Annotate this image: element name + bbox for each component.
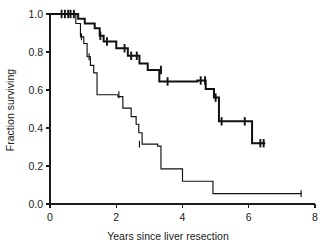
y-tick-label: 0.0 [28,198,43,210]
y-tick-label: 0.2 [28,160,43,172]
y-tick-label: 0.6 [28,84,43,96]
x-axis-title: Years since liver resection [107,230,229,242]
y-axis-title: Fraction surviving [4,69,16,151]
x-tick-label: 4 [180,211,186,223]
survival-curves [50,10,302,197]
y-tick-label: 1.0 [28,8,43,20]
x-tick-label: 8 [312,211,318,223]
x-tick-label: 2 [113,211,119,223]
kaplan-meier-chart: 0.00.20.40.60.81.0 02468 Years since liv… [0,0,323,247]
fraction-axis: 0.00.20.40.60.81.0 [28,8,50,210]
y-tick-label: 0.8 [28,46,43,58]
years-axis: 02468 [47,204,318,223]
x-tick-label: 6 [246,211,252,223]
y-tick-label: 0.4 [28,122,43,134]
survival-plot-svg: 0.00.20.40.60.81.0 02468 Years since liv… [0,0,323,247]
lower-survival-curve [50,14,302,194]
x-tick-label: 0 [47,211,53,223]
upper-survival-curve [50,14,265,143]
